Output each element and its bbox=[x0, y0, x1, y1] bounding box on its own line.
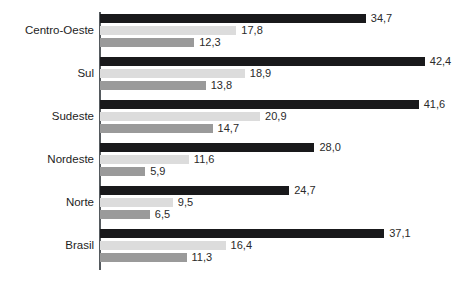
bar-value-label: 13,8 bbox=[211, 80, 232, 91]
bar-serie-2-1 bbox=[100, 26, 236, 35]
bar-value-label: 41,6 bbox=[424, 99, 445, 110]
bar-group: Nordeste28,011,65,9 bbox=[0, 143, 463, 176]
category-label: Brasil bbox=[65, 240, 94, 252]
bar-serie-1-1 bbox=[100, 14, 366, 23]
bar-value-label: 24,7 bbox=[294, 185, 315, 196]
bar-value-label: 12,3 bbox=[199, 37, 220, 48]
bar-serie-1-2 bbox=[100, 57, 425, 66]
bar-serie-2-3 bbox=[100, 112, 260, 121]
bar-serie-3-6 bbox=[100, 253, 187, 262]
bar-value-label: 37,1 bbox=[389, 228, 410, 239]
bar-serie-3-3 bbox=[100, 124, 213, 133]
bar-value-label: 6,5 bbox=[155, 209, 170, 220]
bar-serie-2-2 bbox=[100, 69, 245, 78]
bar-value-label: 11,6 bbox=[194, 154, 215, 165]
bar-serie-1-6 bbox=[100, 229, 384, 238]
bar-serie-1-3 bbox=[100, 100, 419, 109]
bar-value-label: 14,7 bbox=[218, 123, 239, 134]
category-label: Sudeste bbox=[52, 111, 94, 123]
bar-serie-3-2 bbox=[100, 81, 206, 90]
bar-chart: Centro-Oeste34,717,812,3Sul42,418,913,8S… bbox=[0, 0, 463, 289]
bar-group: Norte24,79,56,5 bbox=[0, 186, 463, 219]
bar-group: Brasil37,116,411,3 bbox=[0, 229, 463, 262]
bar-serie-3-1 bbox=[100, 38, 194, 47]
plot-area: Centro-Oeste34,717,812,3Sul42,418,913,8S… bbox=[0, 0, 463, 289]
bar-value-label: 28,0 bbox=[319, 142, 340, 153]
bar-group: Centro-Oeste34,717,812,3 bbox=[0, 14, 463, 47]
bar-value-label: 9,5 bbox=[178, 197, 193, 208]
category-label: Sul bbox=[77, 68, 94, 80]
bar-serie-3-4 bbox=[100, 167, 145, 176]
bar-value-label: 18,9 bbox=[250, 68, 271, 79]
bar-value-label: 17,8 bbox=[241, 25, 262, 36]
bar-value-label: 16,4 bbox=[231, 240, 252, 251]
bar-group: Sudeste41,620,914,7 bbox=[0, 100, 463, 133]
bar-value-label: 42,4 bbox=[430, 56, 451, 67]
category-label: Norte bbox=[66, 197, 94, 209]
bar-value-label: 11,3 bbox=[192, 252, 213, 263]
bar-group: Sul42,418,913,8 bbox=[0, 57, 463, 90]
bar-serie-2-6 bbox=[100, 241, 226, 250]
bar-value-label: 20,9 bbox=[265, 111, 286, 122]
bar-serie-1-5 bbox=[100, 186, 289, 195]
bar-serie-2-5 bbox=[100, 198, 173, 207]
bar-value-label: 34,7 bbox=[371, 13, 392, 24]
bar-serie-1-4 bbox=[100, 143, 314, 152]
bar-serie-2-4 bbox=[100, 155, 189, 164]
bar-serie-3-5 bbox=[100, 210, 150, 219]
category-label: Nordeste bbox=[47, 154, 94, 166]
bar-value-label: 5,9 bbox=[150, 166, 165, 177]
category-label: Centro-Oeste bbox=[25, 25, 94, 37]
